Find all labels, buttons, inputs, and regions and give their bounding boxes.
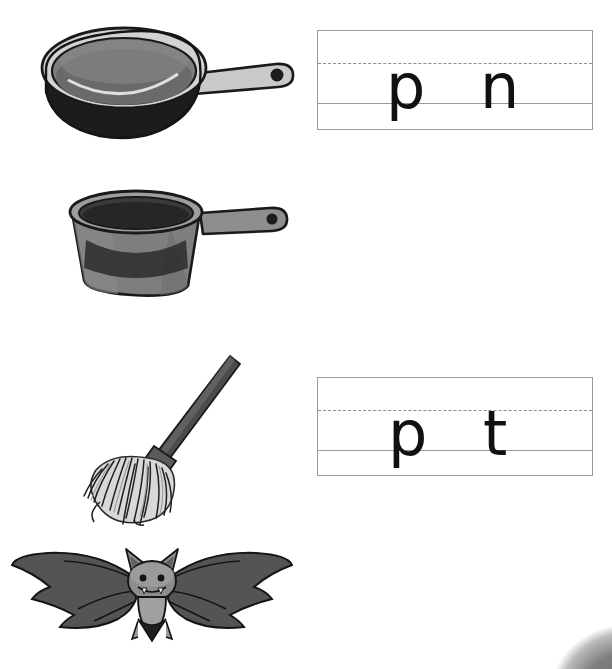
- picture-cell-mop: [0, 347, 310, 527]
- word-last-letter: n: [480, 56, 519, 118]
- worksheet-row: m p: [0, 347, 612, 527]
- picture-cell-bat: [0, 527, 310, 669]
- worksheet-row: p n: [0, 0, 612, 172]
- worksheet-row: b t: [0, 527, 612, 669]
- letters-group: p n: [318, 31, 592, 129]
- handwriting-box[interactable]: p n: [317, 30, 593, 130]
- worksheet-page: p n: [0, 0, 612, 669]
- cooking-pot-icon: [48, 188, 298, 308]
- frying-pan-icon: [28, 22, 298, 147]
- picture-cell-pan: [0, 0, 310, 172]
- word-first-letter: p: [386, 56, 425, 118]
- bat-icon: [2, 539, 302, 657]
- mop-icon: [78, 312, 268, 527]
